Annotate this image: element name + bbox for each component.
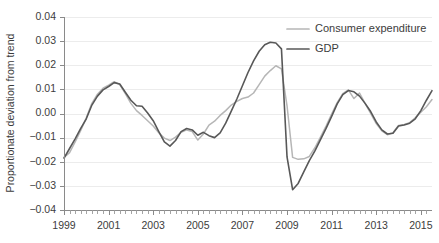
- y-tick-label: −0.02: [29, 155, 56, 167]
- y-tick-label: −0.01: [29, 130, 56, 142]
- x-tick-label: 2011: [320, 219, 343, 231]
- legend-label: Consumer expenditure: [315, 22, 426, 34]
- series-line-gdp: [64, 42, 432, 189]
- x-tick-label: 2013: [365, 219, 389, 231]
- y-tick-label: −0.04: [29, 203, 56, 215]
- legend: Consumer expenditureGDP: [287, 22, 426, 54]
- y-tick-label: 0.04: [36, 10, 57, 22]
- x-tick-label: 2003: [142, 219, 166, 231]
- chart-figure: 0.040.030.020.010.00−0.01−0.02−0.03−0.04…: [0, 0, 439, 243]
- series-line-consumer-expenditure: [64, 66, 432, 160]
- x-tick-label: 2001: [97, 219, 121, 231]
- x-tick-label: 2005: [186, 219, 210, 231]
- x-tick-labels: 199920012003200520072009201120132015: [52, 219, 432, 231]
- gridlines: [64, 18, 432, 211]
- y-tick-label: −0.03: [29, 179, 56, 191]
- legend-label: GDP: [315, 42, 339, 54]
- line-chart: 0.040.030.020.010.00−0.01−0.02−0.03−0.04…: [0, 0, 439, 243]
- y-axis-title: Proportionate deviation from trend: [4, 33, 16, 192]
- x-tick-label: 2015: [409, 219, 433, 231]
- x-tick-label: 1999: [52, 219, 76, 231]
- series-lines: [64, 42, 432, 189]
- y-tick-label: 0.03: [36, 34, 57, 46]
- axes: [60, 17, 432, 215]
- y-tick-labels: 0.040.030.020.010.00−0.01−0.02−0.03−0.04: [29, 10, 56, 215]
- x-tick-label: 2007: [231, 219, 255, 231]
- y-tick-label: 0.00: [36, 106, 57, 118]
- y-tick-label: 0.02: [36, 58, 57, 70]
- x-tick-label: 2009: [275, 219, 299, 231]
- y-tick-label: 0.01: [36, 82, 57, 94]
